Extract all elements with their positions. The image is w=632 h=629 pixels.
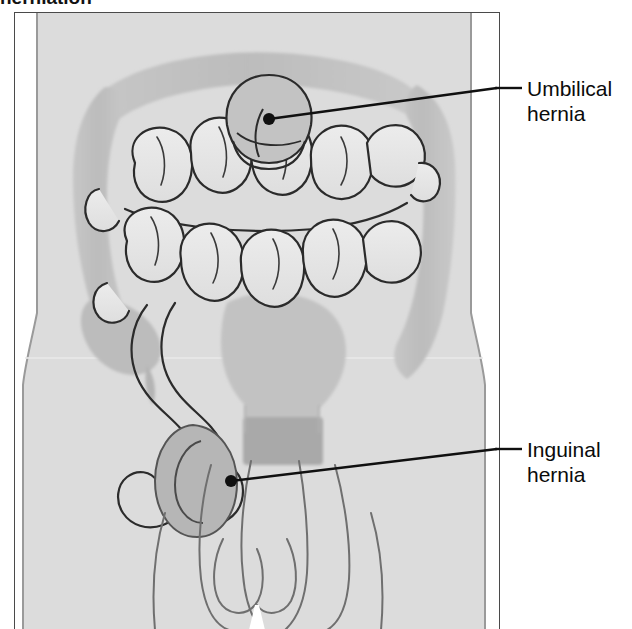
callout-label-inguinal-hernia: Inguinal hernia xyxy=(527,437,601,487)
umbilical-hernia-bulge xyxy=(226,75,311,169)
figure-caption-cropped: herniation xyxy=(0,0,300,9)
callout-umbilical-line2: hernia xyxy=(527,101,612,126)
inguinal-hernia-sac xyxy=(155,425,237,537)
figure-frame xyxy=(14,12,500,629)
anatomy-illustration xyxy=(15,13,499,629)
callout-inguinal-line2: hernia xyxy=(527,462,601,487)
callout-inguinal-line1: Inguinal xyxy=(527,437,601,462)
figure-caption-text: herniation xyxy=(0,0,300,9)
callout-umbilical-line1: Umbilical xyxy=(527,76,612,101)
callout-label-umbilical-hernia: Umbilical hernia xyxy=(527,76,612,126)
